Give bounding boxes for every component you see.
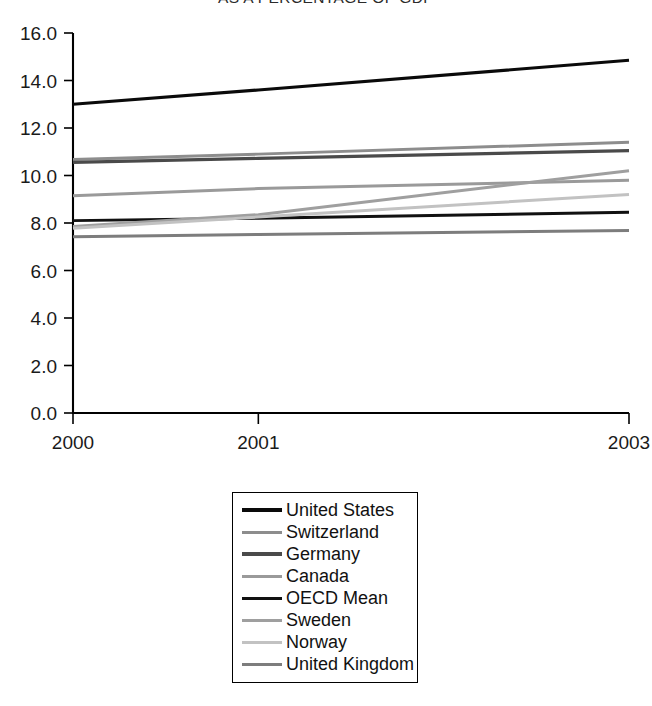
legend-line-swatch-icon — [242, 641, 282, 644]
y-tick-label: 4.0 — [31, 308, 57, 329]
legend-item-label: OECD Mean — [286, 587, 388, 609]
legend-line-swatch-icon — [242, 552, 282, 555]
legend-item-label: United States — [286, 499, 394, 521]
legend-item[interactable]: United Kingdom — [242, 653, 409, 675]
y-tick-label: 10.0 — [20, 166, 57, 187]
legend-item-label: Germany — [286, 543, 360, 565]
y-tick-label: 14.0 — [20, 71, 57, 92]
legend-line-swatch-icon — [242, 619, 282, 622]
legend-swatch-wrap — [242, 575, 286, 578]
legend-line-swatch-icon — [242, 575, 282, 578]
y-axis-tick-labels: 0.02.04.06.08.010.012.014.016.0 — [20, 23, 57, 424]
series-line-oecd-mean — [73, 212, 629, 220]
series-line-canada — [73, 180, 629, 195]
line-chart-plot: 0.02.04.06.08.010.012.014.016.0 20002001… — [0, 0, 652, 480]
chart-axes — [64, 33, 629, 424]
legend-swatch-wrap — [242, 597, 286, 600]
series-line-united-states — [73, 60, 629, 104]
legend-line-swatch-icon — [242, 508, 282, 511]
legend-line-swatch-icon — [242, 663, 282, 666]
legend-item-label: Switzerland — [286, 521, 379, 543]
series-line-norway — [73, 195, 629, 229]
chart-series — [73, 60, 629, 236]
y-tick-label: 6.0 — [31, 261, 57, 282]
legend-swatch-wrap — [242, 641, 286, 644]
y-tick-label: 12.0 — [20, 118, 57, 139]
legend-item[interactable]: Germany — [242, 543, 409, 565]
legend-item[interactable]: Switzerland — [242, 521, 409, 543]
y-tick-label: 2.0 — [31, 356, 57, 377]
x-tick-label: 2003 — [608, 432, 650, 453]
legend-item-label: Canada — [286, 565, 349, 587]
legend-line-swatch-icon — [242, 531, 282, 534]
legend-swatch-wrap — [242, 619, 286, 622]
legend-item[interactable]: Sweden — [242, 609, 409, 631]
legend-item[interactable]: OECD Mean — [242, 587, 409, 609]
legend-item-label: Sweden — [286, 609, 351, 631]
x-tick-label: 2001 — [237, 432, 279, 453]
legend-item[interactable]: Norway — [242, 631, 409, 653]
series-line-united-kingdom — [73, 231, 629, 237]
x-axis-tick-labels: 200020012003 — [52, 432, 650, 453]
chart-legend: United StatesSwitzerlandGermanyCanadaOEC… — [232, 492, 418, 683]
x-tick-label: 2000 — [52, 432, 94, 453]
legend-swatch-wrap — [242, 508, 286, 511]
chart-figure: AS A PERCENTAGE OF GDP 0.02.04.06.08.010… — [0, 0, 652, 706]
legend-item[interactable]: Canada — [242, 565, 409, 587]
legend-line-swatch-icon — [242, 597, 282, 600]
legend-item-label: United Kingdom — [286, 653, 414, 675]
y-tick-label: 0.0 — [31, 403, 57, 424]
legend-swatch-wrap — [242, 552, 286, 555]
legend-swatch-wrap — [242, 663, 286, 666]
legend-item-label: Norway — [286, 631, 347, 653]
legend-item[interactable]: United States — [242, 499, 409, 521]
y-tick-label: 16.0 — [20, 23, 57, 44]
y-tick-label: 8.0 — [31, 213, 57, 234]
legend-swatch-wrap — [242, 531, 286, 534]
